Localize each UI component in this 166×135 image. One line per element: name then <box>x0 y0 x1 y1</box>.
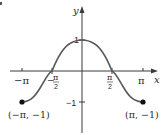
point-label-right: (π, −1) <box>125 109 159 120</box>
y-axis: y <box>72 5 85 133</box>
tick-label-y-neg-one: −1 <box>66 98 76 108</box>
endpoint-left-marker <box>19 99 24 104</box>
endpoint-right-marker <box>140 99 145 104</box>
y-axis-label: y <box>72 5 79 16</box>
x-axis-arrow-icon <box>151 69 158 74</box>
svg-text:2: 2 <box>108 83 112 90</box>
corner-mark <box>0 2 2 5</box>
y-axis-arrow-icon <box>80 6 85 13</box>
tick-label-pi: π <box>138 75 145 86</box>
tick-label-half-pi: π 2 <box>107 73 113 90</box>
svg-text:π: π <box>107 73 112 82</box>
svg-text:2: 2 <box>54 83 58 90</box>
cosine-graph: x y −π π − π 2 π 2 1 −1 (−π, −1) (π, −1) <box>0 0 166 135</box>
svg-text:π: π <box>53 73 58 82</box>
x-axis-label: x <box>154 74 160 85</box>
point-label-left: (−π, −1) <box>8 109 50 120</box>
tick-label-neg-half-pi: − π 2 <box>47 73 59 90</box>
tick-label-neg-pi: −π <box>14 75 29 86</box>
